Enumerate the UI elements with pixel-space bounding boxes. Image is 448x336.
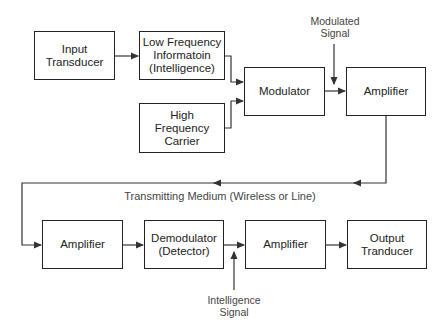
demodulator-block: Demodulator (Detector) — [144, 220, 224, 269]
block-label: High Frequency Carrier — [155, 109, 209, 148]
modulated-signal-label: Modulated Signal — [300, 15, 370, 39]
block-label: Amplifier — [263, 238, 308, 251]
rx-amplifier-block: Amplifier — [42, 220, 123, 269]
audio-amplifier-block: Amplifier — [245, 220, 326, 269]
low-frequency-info-block: Low Frequency Informatoin (Intelligence) — [139, 31, 225, 80]
input-transducer-block: Input Transducer — [34, 31, 115, 80]
block-label: Input Transducer — [46, 43, 104, 69]
block-label: Low Frequency Informatoin (Intelligence) — [143, 36, 222, 75]
output-transducer-block: Output Tranducer — [347, 220, 427, 269]
modulator-block: Modulator — [244, 67, 325, 116]
tx-amplifier-block: Amplifier — [346, 67, 426, 116]
block-label: Amplifier — [60, 238, 105, 251]
block-label: Modulator — [259, 85, 310, 98]
intelligence-signal-label: Intelligence Signal — [199, 294, 269, 318]
block-label: Demodulator (Detector) — [151, 232, 217, 258]
block-label: Output Tranducer — [361, 232, 413, 258]
block-label: Amplifier — [364, 85, 409, 98]
transmitting-medium-label: Transmitting Medium (Wireless or Line) — [90, 190, 350, 202]
high-frequency-carrier-block: High Frequency Carrier — [139, 103, 225, 153]
